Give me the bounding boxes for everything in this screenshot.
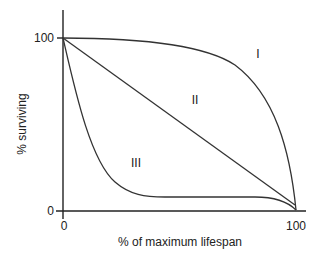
y-axis-label: % surviving xyxy=(15,93,29,154)
y-tick-100: 100 xyxy=(34,31,54,45)
curve-label-i: I xyxy=(256,47,259,61)
curve-label-ii: II xyxy=(192,93,199,107)
y-tick-0: 0 xyxy=(47,204,54,218)
x-tick-0: 0 xyxy=(61,219,68,233)
survivorship-chart: 100 0 0 100 % of maximum lifespan % surv… xyxy=(0,0,321,260)
x-axis-label: % of maximum lifespan xyxy=(118,235,242,249)
x-tick-100: 100 xyxy=(286,219,306,233)
curve-label-iii: III xyxy=(131,156,141,170)
curve-type-ii xyxy=(63,38,295,205)
